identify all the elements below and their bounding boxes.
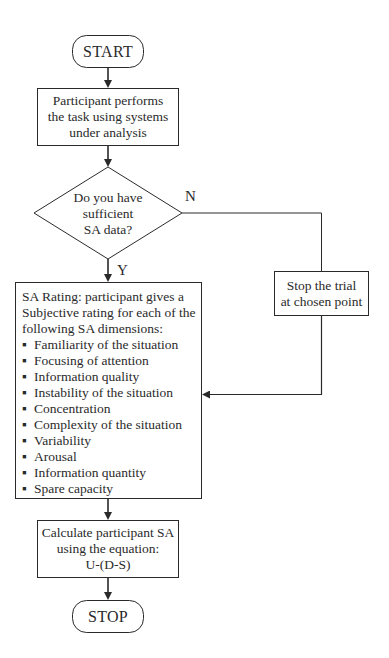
bullet-icon: ▪ — [22, 369, 27, 385]
decision-no-label: N — [185, 188, 196, 205]
sa-dimension-label: Spare capacity — [34, 481, 113, 496]
decision-line-2: sufficient — [83, 206, 134, 222]
start-terminal: START — [72, 35, 144, 68]
decision-line-3: SA data? — [84, 222, 132, 238]
decision-yes-label: Y — [117, 262, 128, 279]
line-decision-no — [182, 213, 322, 271]
calculate-line-3: U-(D-S) — [86, 557, 131, 573]
bullet-icon: ▪ — [22, 417, 27, 433]
bullet-icon: ▪ — [22, 337, 27, 353]
sa-rating-box: SA Rating: participant gives a Subjectiv… — [15, 282, 202, 499]
stop-label: STOP — [88, 609, 128, 625]
sa-dimension-item: ▪Concentration — [22, 401, 202, 417]
stop-trial-line-1: Stop the trial — [287, 278, 357, 294]
bullet-icon: ▪ — [22, 449, 27, 465]
start-label: START — [83, 44, 133, 60]
sa-dimension-item: ▪Information quality — [22, 369, 202, 385]
arrow-stop-trial-to-sa-rating — [204, 316, 322, 395]
sa-rating-intro-1: SA Rating: participant gives a — [22, 289, 202, 305]
calculate-process-box: Calculate participant SA using the equat… — [37, 520, 179, 578]
bullet-icon: ▪ — [22, 433, 27, 449]
task-line-3: under analysis — [69, 125, 147, 141]
bullet-icon: ▪ — [22, 481, 27, 497]
sa-dimension-item: ▪Variability — [22, 433, 202, 449]
bullet-icon: ▪ — [22, 465, 27, 481]
sa-dimension-label: Instability of the situation — [34, 385, 173, 400]
sa-dimension-label: Complexity of the situation — [34, 417, 182, 432]
stop-trial-line-2: at chosen point — [281, 294, 363, 310]
sa-dimension-label: Information quantity — [34, 465, 146, 480]
sa-dimension-label: Concentration — [34, 401, 110, 416]
sa-dimension-label: Variability — [34, 433, 91, 448]
decision-line-1: Do you have — [74, 190, 143, 206]
sa-dimension-label: Familiarity of the situation — [34, 337, 178, 352]
stop-terminal: STOP — [72, 600, 144, 633]
sa-dimension-item: ▪Spare capacity — [22, 481, 202, 497]
sa-dimension-label: Information quality — [34, 369, 139, 384]
task-line-2: the task using systems — [48, 109, 168, 125]
stop-trial-box: Stop the trial at chosen point — [274, 271, 369, 316]
sa-dimensions-list: ▪Familiarity of the situation ▪Focusing … — [22, 337, 202, 497]
bullet-icon: ▪ — [22, 401, 27, 417]
sa-rating-intro-3: following SA dimensions: — [22, 321, 202, 337]
bullet-icon: ▪ — [22, 353, 27, 369]
sa-dimension-item: ▪Information quantity — [22, 465, 202, 481]
bullet-icon: ▪ — [22, 385, 27, 401]
sa-dimension-item: ▪Complexity of the situation — [22, 417, 202, 433]
sa-dimension-label: Focusing of attention — [34, 353, 149, 368]
sa-dimension-label: Arousal — [34, 449, 77, 464]
task-line-1: Participant performs — [53, 93, 164, 109]
sa-dimension-item: ▪Familiarity of the situation — [22, 337, 202, 353]
sa-dimension-item: ▪Focusing of attention — [22, 353, 202, 369]
calculate-line-1: Calculate participant SA — [42, 525, 175, 541]
decision-diamond: Do you have sufficient SA data? — [58, 190, 158, 238]
sa-dimension-item: ▪Arousal — [22, 449, 202, 465]
task-process-box: Participant performs the task using syst… — [37, 88, 179, 146]
sa-rating-intro-2: Subjective rating for each of the — [22, 305, 202, 321]
calculate-line-2: using the equation: — [57, 541, 160, 557]
sa-dimension-item: ▪Instability of the situation — [22, 385, 202, 401]
